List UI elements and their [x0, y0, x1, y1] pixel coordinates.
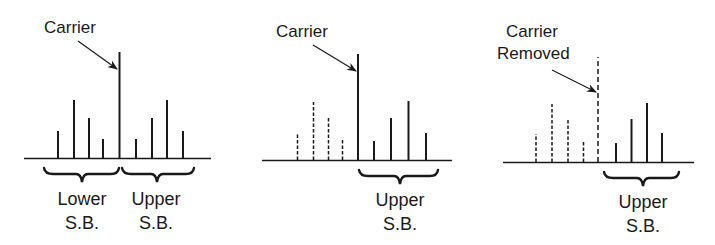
upper-sb-label-line1: Upper [131, 189, 180, 209]
sideband-spectrum-diagram: Carrier Lower S.B. Upper S.B. Carrier [0, 0, 715, 245]
carrier-arrow [552, 70, 596, 92]
upper-sideband-lines [136, 100, 183, 158]
lower-sideband-lines [58, 100, 103, 158]
panel-ssb-with-carrier: Carrier Upper S.B. [262, 22, 452, 234]
lower-sb-label-line2: S.B. [65, 213, 99, 233]
lower-sideband-lines-removed [536, 104, 584, 162]
carrier-label: Carrier [44, 18, 96, 37]
upper-sb-label-line1: Upper [618, 192, 667, 212]
panel-full-carrier-dsb: Carrier Lower S.B. Upper S.B. [24, 18, 211, 233]
upper-sideband-lines [374, 101, 426, 160]
panel-ssb-suppressed-carrier: Carrier Removed Upper S.B. [497, 22, 694, 236]
carrier-arrow [313, 45, 356, 71]
upper-sideband-brace [359, 170, 438, 184]
lower-sideband-brace [44, 168, 119, 182]
upper-sb-label-line1: Upper [375, 190, 424, 210]
upper-sideband-lines [616, 103, 662, 162]
upper-sb-label-line2: S.B. [626, 216, 660, 236]
carrier-arrow [78, 41, 117, 69]
carrier-label: Carrier [276, 22, 328, 41]
upper-sideband-brace [122, 168, 194, 182]
lower-sideband-lines-removed [298, 102, 343, 160]
upper-sideband-brace [604, 172, 679, 186]
upper-sb-label-line2: S.B. [383, 214, 417, 234]
upper-sb-label-line2: S.B. [139, 213, 173, 233]
carrier-label-line1: Carrier [506, 22, 558, 41]
lower-sb-label-line1: Lower [57, 189, 106, 209]
carrier-label-line2: Removed [497, 44, 570, 63]
